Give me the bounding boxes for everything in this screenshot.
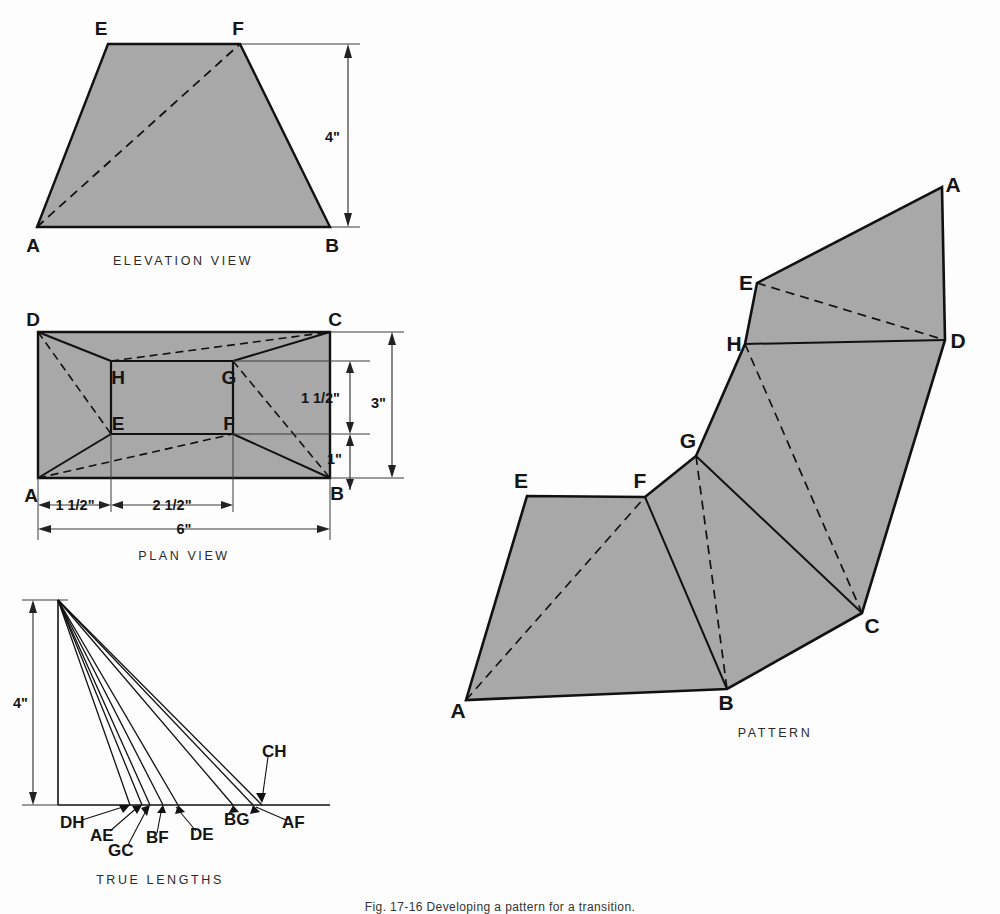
dimension-arrow-right-icon <box>99 501 111 509</box>
plan-view-caption: PLAN VIEW <box>138 549 229 563</box>
tl-label-GC: GC <box>108 841 134 860</box>
plan-dim-label-2half-horizontal: 2 1/2" <box>152 497 191 513</box>
tl-label-DH: DH <box>60 813 85 832</box>
pattern-vertex-label-F: F <box>634 469 647 492</box>
pattern-group: A E F G H E A D C B PATTERN <box>450 173 965 740</box>
plan-dim-label-6in-horizontal: 6" <box>177 521 192 537</box>
tl-ray-BG <box>58 600 233 805</box>
tl-ray-GC <box>58 600 150 805</box>
dimension-arrow-down-icon <box>344 213 352 227</box>
tl-label-CH: CH <box>262 742 287 761</box>
dimension-arrow-left-icon <box>38 525 51 533</box>
tl-label-BF: BF <box>146 828 169 847</box>
pattern-vertex-label-C: C <box>864 614 879 637</box>
pattern-vertex-label-H: H <box>726 332 741 355</box>
pattern-vertex-label-B: B <box>718 691 733 714</box>
elevation-dimension-label: 4" <box>325 129 340 145</box>
plan-vertex-label-B: B <box>330 483 344 504</box>
tl-dimension-label: 4" <box>13 695 28 711</box>
dimension-arrow-left-icon <box>38 501 50 509</box>
elevation-view-caption: ELEVATION VIEW <box>113 254 253 268</box>
dimension-arrow-down-icon <box>29 792 37 805</box>
pattern-vertex-label-E-left: E <box>514 469 528 492</box>
tl-ray-AF <box>58 600 253 805</box>
plan-vertex-label-G: G <box>222 367 237 388</box>
dimension-arrow-down-icon <box>346 422 354 434</box>
leader-arrow-icon <box>119 805 130 813</box>
leader-arrow-icon <box>141 805 150 816</box>
tl-label-BG: BG <box>224 810 250 829</box>
dimension-arrow-down-icon <box>388 465 396 478</box>
plan-vertex-label-H: H <box>111 367 125 388</box>
tl-ray-DH <box>58 600 130 805</box>
drawing-page: 4" E F B A ELEVATION VIEW <box>0 0 1000 914</box>
figure-bottom-caption: Fig. 17-16 Developing a pattern for a tr… <box>365 900 635 914</box>
tl-ray-BF <box>58 600 163 805</box>
pattern-vertex-label-D: D <box>950 329 965 352</box>
dimension-arrow-up-icon <box>29 600 37 613</box>
plan-dim-label-1half-vertical: 1 1/2" <box>301 390 340 406</box>
leader-arrow-icon <box>157 805 166 813</box>
pattern-caption: PATTERN <box>738 726 813 740</box>
tl-label-AF: AF <box>282 813 305 832</box>
leader-arrow-icon <box>132 805 142 814</box>
elevation-trapezoid-shape <box>37 44 330 227</box>
elevation-vertex-label-A: A <box>26 235 40 256</box>
dimension-arrow-up-icon <box>346 434 354 446</box>
elevation-vertex-label-E: E <box>95 18 108 39</box>
leader-arrow-icon <box>256 793 266 803</box>
true-lengths-group: 4" <box>13 600 330 887</box>
dimension-arrow-up-icon <box>346 361 354 373</box>
tl-label-DE: DE <box>190 825 214 844</box>
dimension-arrow-left-icon <box>111 501 123 509</box>
leader-arrow-icon <box>250 805 260 814</box>
elevation-vertex-label-F: F <box>232 18 244 39</box>
tl-ray-AE <box>58 600 142 805</box>
elevation-view-group: 4" E F B A ELEVATION VIEW <box>26 18 360 268</box>
dimension-arrow-up-icon <box>344 44 352 58</box>
plan-dim-label-1in-vertical: 1" <box>327 451 342 467</box>
plan-vertex-label-F: F <box>223 413 235 434</box>
dimension-arrow-down-icon <box>346 479 354 490</box>
pattern-vertex-label-A-left: A <box>450 699 465 722</box>
plan-vertex-label-E: E <box>112 413 125 434</box>
plan-outer-rectangle-shape <box>38 332 330 478</box>
dimension-arrow-up-icon <box>388 332 396 345</box>
pattern-vertex-label-G: G <box>680 429 696 452</box>
pattern-vertex-label-E-right: E <box>739 271 753 294</box>
plan-dim-label-1half-horizontal: 1 1/2" <box>55 497 94 513</box>
leader-arrow-icon <box>175 805 185 814</box>
elevation-vertex-label-B: B <box>325 235 339 256</box>
technical-drawing-canvas: 4" E F B A ELEVATION VIEW <box>0 0 1000 914</box>
plan-view-group: D C B A H G F E 1 1/2" 1" <box>24 309 404 563</box>
tl-leader-DH <box>82 806 126 820</box>
dimension-arrow-right-icon <box>221 501 233 509</box>
plan-dim-label-3in-vertical: 3" <box>371 395 386 411</box>
plan-vertex-label-D: D <box>26 309 40 330</box>
dimension-arrow-right-icon <box>317 525 330 533</box>
plan-vertex-label-C: C <box>328 309 342 330</box>
true-lengths-caption: TRUE LENGTHS <box>96 873 224 887</box>
tl-ray-fan <box>58 600 262 805</box>
pattern-vertex-label-A-right: A <box>945 173 960 196</box>
plan-vertex-label-A: A <box>24 485 38 506</box>
